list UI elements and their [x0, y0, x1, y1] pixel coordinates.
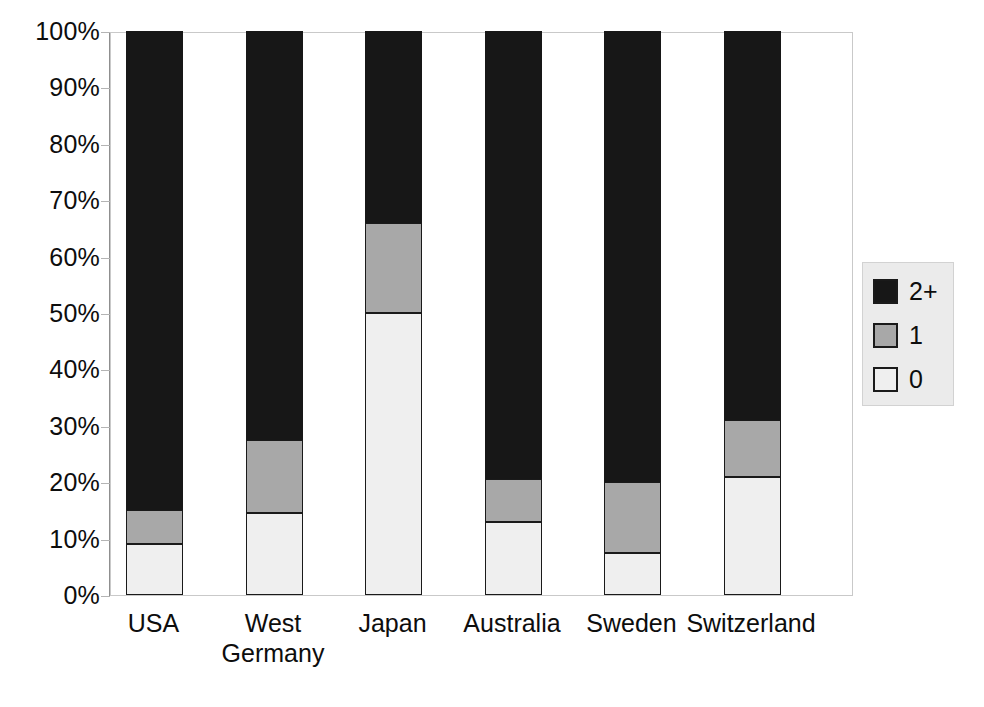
x-axis-tick-label: Switzerland — [671, 608, 831, 638]
legend-swatch-icon — [873, 367, 898, 392]
y-axis-tick-mark — [101, 370, 110, 371]
bar-group[interactable] — [126, 31, 183, 595]
y-axis-tick-mark — [101, 201, 110, 202]
y-axis-tick-mark — [101, 88, 110, 89]
y-axis-tick-label: 0% — [4, 583, 100, 608]
bar-segment-0[interactable] — [246, 513, 303, 595]
y-axis-tick-label: 10% — [4, 527, 100, 552]
legend: 2+10 — [862, 262, 954, 406]
bar-segment-1[interactable] — [246, 440, 303, 513]
y-axis-tick-mark — [101, 314, 110, 315]
y-axis: 0%10%20%30%40%50%60%70%80%90%100% — [0, 0, 100, 707]
y-axis-tick-label: 90% — [4, 75, 100, 100]
legend-label: 1 — [909, 323, 923, 348]
bar-segment-1[interactable] — [365, 223, 422, 313]
bar-segment-0[interactable] — [485, 522, 542, 595]
legend-swatch-icon — [873, 279, 898, 304]
bar-segment-0[interactable] — [365, 313, 422, 595]
y-axis-tick-mark — [101, 483, 110, 484]
bar-segment-2plus[interactable] — [604, 31, 661, 482]
legend-item[interactable]: 1 — [873, 320, 923, 350]
bar-group[interactable] — [604, 31, 661, 595]
legend-item[interactable]: 0 — [873, 364, 923, 394]
bar-group[interactable] — [365, 31, 422, 595]
legend-item[interactable]: 2+ — [873, 276, 938, 306]
bar-segment-1[interactable] — [604, 482, 661, 553]
bar-group[interactable] — [724, 31, 781, 595]
y-axis-tick-label: 20% — [4, 470, 100, 495]
y-axis-tick-mark — [101, 427, 110, 428]
bar-group[interactable] — [485, 31, 542, 595]
bar-segment-2plus[interactable] — [485, 31, 542, 479]
bar-segment-1[interactable] — [485, 479, 542, 521]
stacked-bar-chart: 0%10%20%30%40%50%60%70%80%90%100% USAWes… — [0, 0, 984, 707]
bar-segment-2plus[interactable] — [365, 31, 422, 223]
y-axis-tick-label: 60% — [4, 245, 100, 270]
bar-segment-1[interactable] — [126, 510, 183, 544]
bar-segment-0[interactable] — [724, 477, 781, 595]
y-axis-tick-mark — [101, 145, 110, 146]
bar-segment-2plus[interactable] — [724, 31, 781, 420]
y-axis-tick-label: 100% — [4, 19, 100, 44]
y-axis-tick-mark — [101, 258, 110, 259]
y-axis-tick-mark — [101, 596, 110, 597]
y-axis-tick-label: 70% — [4, 188, 100, 213]
legend-swatch-icon — [873, 323, 898, 348]
bar-group[interactable] — [246, 31, 303, 595]
legend-label: 0 — [909, 367, 923, 392]
bar-segment-0[interactable] — [604, 553, 661, 595]
bar-segment-2plus[interactable] — [126, 31, 183, 510]
legend-label: 2+ — [909, 279, 938, 304]
y-axis-tick-label: 30% — [4, 414, 100, 439]
y-axis-tick-label: 40% — [4, 357, 100, 382]
bar-segment-1[interactable] — [724, 420, 781, 476]
y-axis-tick-mark — [101, 540, 110, 541]
plot-area — [110, 32, 853, 596]
y-axis-tick-label: 80% — [4, 132, 100, 157]
y-axis-tick-mark — [101, 32, 110, 33]
y-axis-tick-label: 50% — [4, 301, 100, 326]
bar-segment-0[interactable] — [126, 544, 183, 595]
bar-segment-2plus[interactable] — [246, 31, 303, 440]
